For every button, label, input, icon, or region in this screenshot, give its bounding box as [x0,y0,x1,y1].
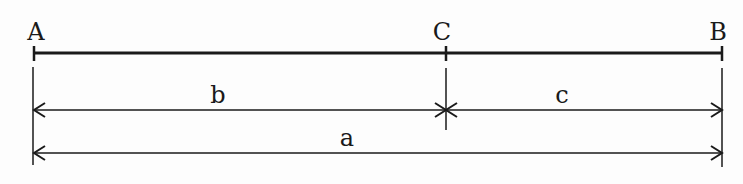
segment-diagram: A C B b c [0,0,743,184]
segment-ab [34,46,722,61]
diagram-canvas: A C B b c [0,0,743,184]
dimension-label-c: c [555,81,568,109]
dimension-b [34,103,446,117]
dimension-label-a: a [340,124,354,152]
point-label-b: B [709,18,727,46]
extension-lines [33,67,722,167]
point-label-c: C [433,18,451,46]
point-label-a: A [26,18,45,46]
dimension-a [34,146,722,160]
dimension-label-b: b [210,81,225,109]
dimension-c [446,103,722,117]
